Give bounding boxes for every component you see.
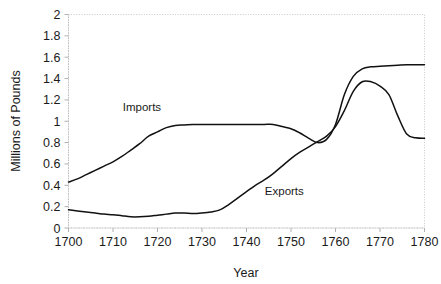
y-axis-title: Millions of Pounds bbox=[9, 70, 23, 171]
chart-figure: 00.20.40.60.811.21.41.61.82 170017101720… bbox=[0, 0, 441, 284]
y-tick-label: 0.8 bbox=[43, 136, 60, 150]
x-tick-label: 1700 bbox=[55, 235, 83, 249]
x-tick-label: 1740 bbox=[233, 235, 261, 249]
line-chart: 00.20.40.60.811.21.41.61.82 170017101720… bbox=[0, 0, 441, 284]
y-tick-label: 1.4 bbox=[43, 72, 60, 86]
y-tick-label: 0.4 bbox=[43, 179, 60, 193]
y-tick-label: 2 bbox=[54, 8, 61, 22]
y-tick-label: 1.8 bbox=[43, 29, 60, 43]
x-tick-label: 1780 bbox=[411, 235, 439, 249]
x-tick-label: 1730 bbox=[188, 235, 216, 249]
x-tick-label: 1750 bbox=[277, 235, 305, 249]
y-tick-label: 1.6 bbox=[43, 51, 60, 65]
x-axis-title: Year bbox=[233, 266, 258, 280]
x-axis-tick-labels: 170017101720173017401750176017701780 bbox=[55, 235, 439, 249]
y-tick-label: 1 bbox=[54, 115, 61, 129]
x-tick-label: 1770 bbox=[366, 235, 394, 249]
x-tick-label: 1760 bbox=[322, 235, 350, 249]
series-annotation-label: Exports bbox=[265, 185, 304, 197]
x-tick-label: 1720 bbox=[144, 235, 172, 249]
y-tick-label: 0.6 bbox=[43, 157, 60, 171]
series-annotation-label: Imports bbox=[123, 101, 162, 113]
y-tick-label: 1.2 bbox=[43, 93, 60, 107]
x-tick-label: 1710 bbox=[99, 235, 127, 249]
y-tick-label: 0.2 bbox=[43, 200, 60, 214]
y-tick-label: 0 bbox=[54, 222, 61, 236]
